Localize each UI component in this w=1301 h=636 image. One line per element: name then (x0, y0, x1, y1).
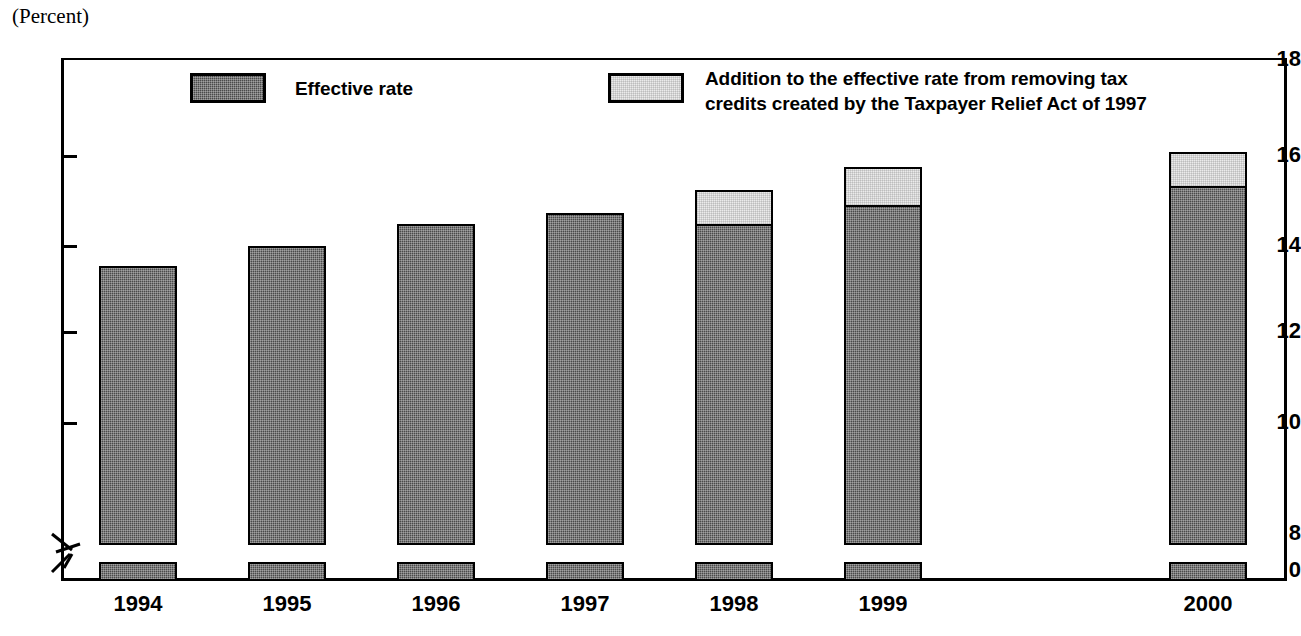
y-tick-mark-14 (61, 245, 77, 248)
x-tick-label-1997: 1997 (546, 592, 624, 616)
bar-segment-effective-2000 (1169, 186, 1247, 545)
y-axis-unit-label: (Percent) (12, 4, 89, 28)
y-tick-label-10: 10 (1255, 411, 1301, 433)
bar-stub-1997 (546, 562, 624, 581)
x-tick-label-1995: 1995 (248, 592, 326, 616)
bar-chart: (Percent) 18 16 14 12 10 8 0 (0, 0, 1301, 636)
bar-segment-effective-1997 (546, 213, 624, 545)
axis-break-icon (50, 528, 90, 574)
y-tick-mark-10 (61, 422, 77, 425)
bar-stub-1998 (695, 562, 773, 581)
bar-segment-effective-1998 (695, 224, 773, 545)
bar-stub-1995 (248, 562, 326, 581)
bar-segment-addition-1998 (695, 190, 773, 226)
x-tick-label-1994: 1994 (99, 592, 177, 616)
x-tick-label-2000: 2000 (1169, 592, 1247, 616)
y-tick-label-18: 18 (1255, 48, 1301, 70)
y-tick-label-12: 12 (1255, 320, 1301, 342)
y-tick-label-16: 16 (1255, 144, 1301, 166)
y-tick-label-14: 14 (1255, 234, 1301, 256)
x-tick-label-1996: 1996 (397, 592, 475, 616)
bar-stub-2000 (1169, 562, 1247, 581)
x-tick-label-1998: 1998 (695, 592, 773, 616)
plot-frame (61, 58, 1287, 580)
bar-segment-addition-1999 (844, 167, 922, 207)
bar-segment-effective-1999 (844, 205, 922, 545)
bar-segment-effective-1996 (397, 224, 475, 545)
x-tick-label-1999: 1999 (844, 592, 922, 616)
y-tick-label-0: 0 (1255, 559, 1301, 581)
y-tick-mark-16 (61, 155, 77, 158)
bar-stub-1996 (397, 562, 475, 581)
legend-label-effective-rate: Effective rate (295, 76, 413, 101)
bar-stub-1999 (844, 562, 922, 581)
bar-stub-1994 (99, 562, 177, 581)
bar-segment-addition-2000 (1169, 152, 1247, 188)
legend-label-addition: Addition to the effective rate from remo… (705, 66, 1147, 116)
legend-swatch-effective-rate (190, 73, 266, 103)
bar-segment-effective-1995 (248, 246, 326, 545)
x-axis-baseline (61, 578, 1287, 581)
bar-segment-effective-1994 (99, 266, 177, 545)
y-tick-mark-12 (61, 331, 77, 334)
y-tick-label-8: 8 (1255, 522, 1301, 544)
legend-swatch-addition (608, 73, 684, 103)
